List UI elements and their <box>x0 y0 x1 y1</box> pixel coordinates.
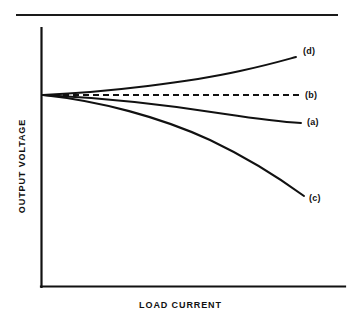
figure-container: (d) (b) (a) (c) OUTPUT VOLTAGE LOAD CURR… <box>0 0 361 328</box>
curve-series-d <box>43 57 296 95</box>
series-label-d: (d) <box>303 47 315 56</box>
series-label-c: (c) <box>309 194 321 203</box>
series-label-a: (a) <box>307 118 319 127</box>
x-axis-title: LOAD CURRENT <box>0 301 361 310</box>
curve-series-c <box>43 95 304 196</box>
y-axis-title: OUTPUT VOLTAGE <box>18 119 27 213</box>
series-label-b: (b) <box>305 91 317 100</box>
curve-series-a <box>43 95 301 123</box>
